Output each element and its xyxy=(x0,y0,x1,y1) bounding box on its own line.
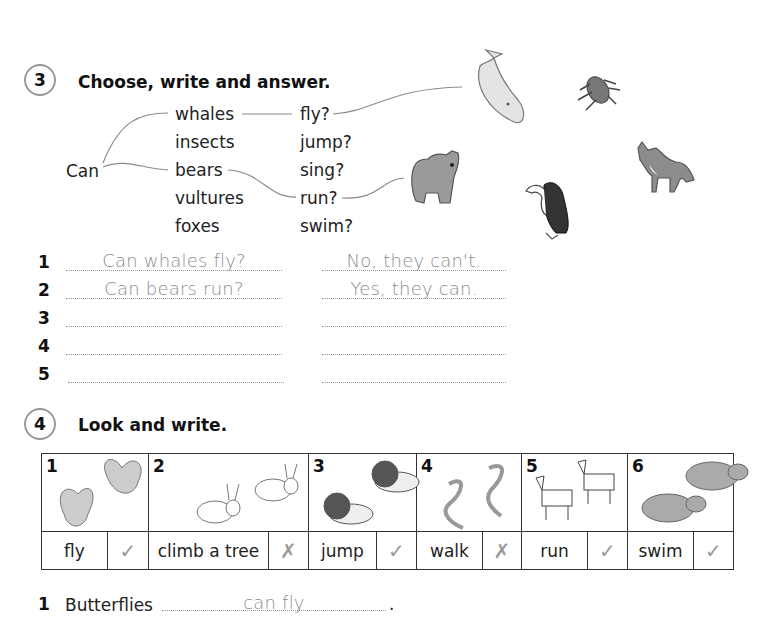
row-number: 3 xyxy=(38,308,50,328)
question-field[interactable] xyxy=(66,334,282,355)
verb-fly: fly? xyxy=(300,104,353,132)
verb-sing: sing? xyxy=(300,160,353,188)
sentence-answer-field[interactable]: can fly xyxy=(162,592,386,611)
tick-icon[interactable]: ✓ xyxy=(377,532,417,569)
question-field[interactable] xyxy=(68,362,284,383)
bear-picture xyxy=(408,147,463,205)
picture-cell: 1 xyxy=(42,454,149,532)
picture-cell: 6 xyxy=(628,454,733,532)
answer-row: 3 xyxy=(38,306,518,334)
answer-row: 1 Can whales fly? No, they can't. xyxy=(38,250,518,278)
question-field[interactable] xyxy=(66,306,282,327)
verb-cell: fly xyxy=(42,532,108,569)
look-and-write-table: 1fly✓2climb a tree✗3jump✓4walk✗5run✓6swi… xyxy=(41,453,734,570)
question-field[interactable]: Can bears run? xyxy=(66,278,282,299)
row-number: 1 xyxy=(38,252,50,272)
answer-row: 4 xyxy=(38,334,518,362)
answer-rows: 1 Can whales fly? No, they can't. 2 Can … xyxy=(38,250,518,390)
cross-icon[interactable]: ✗ xyxy=(483,532,522,569)
answer-row: 2 Can bears run? Yes, they can. xyxy=(38,278,518,306)
tick-icon[interactable]: ✓ xyxy=(588,532,628,569)
subject-whales: whales xyxy=(175,104,244,132)
word-can: Can xyxy=(66,161,99,181)
subject-vultures: vultures xyxy=(175,188,244,216)
line-can-bears xyxy=(103,163,168,170)
insect-picture xyxy=(574,70,624,115)
verb-cell: run xyxy=(522,532,588,569)
answer-field[interactable] xyxy=(322,334,506,355)
picture-cell: 5 xyxy=(522,454,628,532)
sentence-row: 1 Butterflies can fly . xyxy=(38,592,458,616)
exercise-4-title: Look and write. xyxy=(78,415,227,435)
verb-run: run? xyxy=(300,188,353,216)
exercise-4-number: 4 xyxy=(34,414,46,434)
tick-icon[interactable]: ✓ xyxy=(694,532,733,569)
picture-cell: 4 xyxy=(417,454,522,532)
verb-swim: swim? xyxy=(300,216,353,244)
answer-row: 5 xyxy=(38,362,518,390)
rabbits-picture xyxy=(155,454,305,532)
whale-picture xyxy=(468,46,528,126)
verb-jump: jump? xyxy=(300,132,353,160)
verb-cell: jump xyxy=(309,532,377,569)
answer-field[interactable] xyxy=(322,362,506,383)
subject-foxes: foxes xyxy=(175,216,244,244)
picture-cell: 3 xyxy=(309,454,417,532)
hippos-picture xyxy=(634,454,765,532)
subject-insects: insects xyxy=(175,132,244,160)
cross-icon[interactable]: ✗ xyxy=(269,532,309,569)
verbs-column: fly? jump? sing? run? swim? xyxy=(300,104,353,244)
line-can-whales xyxy=(103,113,168,163)
question-field[interactable]: Can whales fly? xyxy=(66,250,282,271)
answer-field[interactable]: No, they can't. xyxy=(322,250,506,271)
row-number: 4 xyxy=(38,336,50,356)
fox-picture xyxy=(636,140,698,195)
tick-icon[interactable]: ✓ xyxy=(108,532,149,569)
row-number: 5 xyxy=(38,364,50,384)
row-number: 1 xyxy=(38,594,50,614)
verb-cell: climb a tree xyxy=(149,532,269,569)
verb-cell: walk xyxy=(417,532,483,569)
sentence-subject: Butterflies xyxy=(65,595,153,615)
verb-cell: swim xyxy=(628,532,694,569)
sentence-full-stop: . xyxy=(389,594,394,614)
answer-field[interactable]: Yes, they can. xyxy=(322,278,506,299)
picture-cell: 2 xyxy=(149,454,309,532)
exercise-4-number-badge: 4 xyxy=(24,408,56,440)
row-number: 2 xyxy=(38,280,50,300)
vulture-picture xyxy=(522,175,577,240)
answer-field[interactable] xyxy=(322,306,506,327)
subjects-column: whales insects bears vultures foxes xyxy=(175,104,244,244)
subject-bears: bears xyxy=(175,160,244,188)
connector-lines xyxy=(0,0,765,260)
